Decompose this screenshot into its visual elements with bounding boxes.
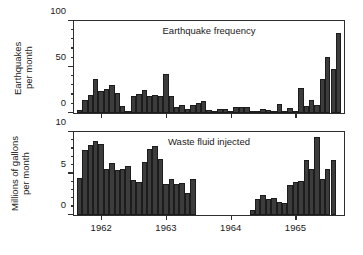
y-axis-title-waste-fluid: Millions of gallons per month bbox=[9, 132, 31, 216]
y-tick-minor bbox=[71, 197, 75, 198]
earthquake-injection-figure: Earthquakes per month Earthquake frequen… bbox=[0, 0, 363, 255]
bar bbox=[190, 179, 195, 215]
x-tick-label: 1965 bbox=[285, 222, 306, 233]
y-tick-minor bbox=[71, 147, 75, 148]
panel-waste-fluid-injected: Waste fluid injected 0510 19621963196419… bbox=[73, 131, 345, 216]
y-tick-minor bbox=[71, 29, 75, 30]
panel-earthquake-frequency: Earthquake frequency 050100 bbox=[73, 20, 345, 114]
y-tick-label: 10 bbox=[55, 116, 66, 127]
y-tick-minor bbox=[71, 189, 75, 190]
y-tick-minor bbox=[71, 103, 75, 104]
plot-area-earthquakes bbox=[74, 21, 344, 113]
y-tick-label: 5 bbox=[61, 157, 66, 168]
y-axis-title-earthquakes: Earthquakes per month bbox=[12, 26, 34, 110]
y-tick-minor bbox=[71, 57, 75, 58]
y-tick-major bbox=[68, 112, 74, 113]
x-tick bbox=[295, 113, 296, 118]
bar bbox=[336, 33, 341, 113]
y-tick-minor bbox=[71, 93, 75, 94]
x-tick bbox=[101, 113, 102, 118]
plot-area-waste-fluid bbox=[74, 132, 344, 215]
y-tick-label: 100 bbox=[50, 5, 66, 16]
y-tick-minor bbox=[71, 38, 75, 39]
y-tick-label: 0 bbox=[61, 97, 66, 108]
bar bbox=[331, 160, 336, 215]
y-tick-minor bbox=[71, 75, 75, 76]
x-tick bbox=[231, 215, 232, 220]
y-tick-minor bbox=[71, 47, 75, 48]
y-tick-minor bbox=[71, 205, 75, 206]
y-tick-major bbox=[68, 131, 74, 132]
y-tick-minor bbox=[71, 84, 75, 85]
y-tick-label: 50 bbox=[55, 51, 66, 62]
y-tick-minor bbox=[71, 181, 75, 182]
x-tick bbox=[295, 215, 296, 220]
x-tick-label: 1964 bbox=[220, 222, 241, 233]
x-tick bbox=[231, 113, 232, 118]
x-tick bbox=[166, 215, 167, 220]
x-tick-label: 1962 bbox=[91, 222, 112, 233]
y-tick-minor bbox=[71, 139, 75, 140]
y-tick-major bbox=[68, 172, 74, 173]
y-tick-minor bbox=[71, 156, 75, 157]
x-tick bbox=[101, 215, 102, 220]
x-tick bbox=[166, 113, 167, 118]
y-tick-label: 0 bbox=[61, 199, 66, 210]
y-tick-major bbox=[68, 20, 74, 21]
y-tick-major bbox=[68, 214, 74, 215]
y-tick-major bbox=[68, 66, 74, 67]
y-tick-minor bbox=[71, 164, 75, 165]
x-tick-label: 1963 bbox=[155, 222, 176, 233]
